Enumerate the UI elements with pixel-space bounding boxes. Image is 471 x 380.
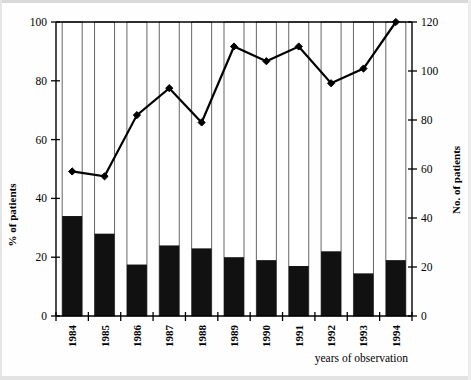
x-axis-category-label: 1987	[163, 325, 175, 348]
bar-group	[224, 22, 244, 316]
bar-group	[95, 22, 115, 316]
bar-value	[159, 245, 179, 316]
bar-value	[127, 265, 147, 316]
bar-value	[224, 257, 244, 316]
y-axis-left-tick-label: 80	[36, 75, 48, 87]
chart-plot-area: 020406080100020406080100120 198419851986…	[0, 0, 471, 380]
bar-value	[256, 260, 276, 316]
bar-group	[256, 22, 276, 316]
y-axis-right-tick-label: 100	[421, 65, 439, 77]
y-axis-right-tick-label: 60	[421, 163, 433, 175]
bar-group	[127, 22, 147, 316]
x-axis-category-label: 1984	[66, 325, 78, 348]
x-axis-category-label: 1990	[260, 325, 272, 348]
bar-value	[353, 273, 373, 316]
y-axis-right-tick-label: 0	[421, 310, 427, 322]
bar-value	[95, 234, 115, 316]
chart-figure: 020406080100020406080100120 198419851986…	[0, 0, 471, 380]
x-axis-category-label: 1986	[131, 325, 143, 348]
bar-group	[386, 22, 406, 316]
y-axis-left-tick-label: 20	[36, 251, 48, 263]
y-axis-left-title: % of patients	[6, 183, 18, 247]
x-axis-category-label: 1985	[99, 325, 111, 348]
bar-value	[289, 266, 309, 316]
x-axis-category-label: 1992	[325, 325, 337, 348]
bar-group	[192, 22, 212, 316]
y-axis-right-tick-label: 80	[421, 114, 433, 126]
x-axis-category-label: 1991	[293, 325, 305, 347]
x-axis-category-label: 1994	[390, 325, 402, 348]
bar-group	[159, 22, 179, 316]
x-axis-category-label: 1989	[228, 325, 240, 348]
bar-value	[386, 260, 406, 316]
y-axis-right-tick-label: 40	[421, 212, 433, 224]
bars-layer	[62, 22, 406, 316]
y-axis-right-title: No. of patients	[450, 145, 462, 214]
x-axis-category-label: 1993	[357, 325, 369, 348]
bar-group	[321, 22, 341, 316]
y-axis-left-tick-label: 40	[36, 192, 48, 204]
y-axis-left-tick-label: 100	[30, 16, 48, 28]
y-axis-left-tick-label: 60	[36, 134, 48, 146]
bar-value	[321, 251, 341, 316]
bar-value	[192, 248, 212, 316]
x-axis-category-label: 1988	[196, 325, 208, 348]
y-axis-right-tick-label: 120	[421, 16, 439, 28]
y-axis-right-tick-label: 20	[421, 261, 433, 273]
x-axis-title: years of observation	[315, 352, 408, 365]
category-label-layer: 1984198519861987198819891990199119921993…	[66, 325, 402, 348]
y-axis-left-tick-label: 0	[41, 310, 47, 322]
bar-group	[289, 22, 309, 316]
bar-value	[62, 216, 82, 316]
